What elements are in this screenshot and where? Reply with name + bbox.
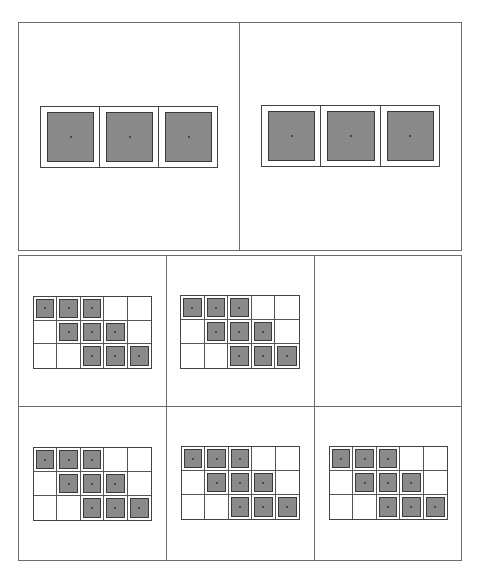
strip-cell: [100, 107, 159, 167]
grid-cell: [400, 471, 423, 495]
center-dot-icon: [215, 331, 217, 333]
three-cell-strip-left: [40, 106, 218, 168]
center-dot-icon: [138, 507, 140, 509]
gray-tile: [207, 473, 225, 492]
staircase-grid-4: [33, 447, 152, 521]
grid-cell: [353, 471, 376, 495]
gray-tile: [231, 473, 249, 492]
gray-tile: [106, 112, 153, 162]
center-dot-icon: [188, 136, 190, 138]
gray-tile: [402, 473, 420, 492]
grid-cell: [81, 448, 104, 472]
grid-cell: [330, 447, 353, 471]
grid-cell: [205, 471, 228, 495]
grid-cell: [205, 344, 229, 368]
gray-tile: [231, 497, 249, 517]
grid-cell: [34, 448, 57, 472]
gray-tile: [59, 450, 77, 469]
grid-cell: [252, 320, 276, 344]
center-dot-icon: [44, 307, 46, 309]
grid-cell: [34, 321, 57, 345]
grid-cell: [81, 496, 104, 520]
grid-cell: [57, 297, 80, 321]
grid-cell: [181, 320, 205, 344]
grid-cell: [275, 296, 299, 320]
center-dot-icon: [410, 506, 412, 508]
grid-cell: [252, 495, 275, 519]
grid-cell: [81, 321, 104, 345]
grid-cell: [57, 344, 80, 368]
center-dot-icon: [387, 482, 389, 484]
center-dot-icon: [70, 136, 72, 138]
center-dot-icon: [387, 506, 389, 508]
center-dot-icon: [239, 482, 241, 484]
grid-cell: [104, 297, 127, 321]
center-dot-icon: [387, 458, 389, 460]
center-dot-icon: [91, 483, 93, 485]
grid-cell: [275, 344, 299, 368]
grid-cell: [276, 471, 299, 495]
grid-cell: [252, 296, 276, 320]
gray-tile: [277, 346, 297, 366]
grid-cell: [34, 472, 57, 496]
grid-cell: [81, 344, 104, 368]
gray-tile: [106, 323, 124, 342]
grid-cell: [81, 297, 104, 321]
center-dot-icon: [409, 135, 411, 137]
center-dot-icon: [238, 355, 240, 357]
grid-cell: [57, 496, 80, 520]
center-dot-icon: [216, 458, 218, 460]
gray-tile: [231, 449, 249, 468]
gray-tile: [83, 498, 101, 518]
grid-cell: [104, 472, 127, 496]
center-dot-icon: [191, 307, 193, 309]
gray-tile: [230, 322, 249, 341]
grid-cell: [424, 471, 447, 495]
gray-tile: [327, 111, 374, 161]
center-dot-icon: [114, 483, 116, 485]
gray-tile: [379, 497, 397, 517]
gray-tile: [47, 112, 94, 162]
center-dot-icon: [114, 355, 116, 357]
gray-tile: [36, 450, 54, 469]
center-dot-icon: [286, 506, 288, 508]
grid-cell: [424, 495, 447, 519]
gray-tile: [207, 298, 226, 317]
gray-tile: [402, 497, 420, 517]
grid-cell: [252, 344, 276, 368]
center-dot-icon: [192, 458, 194, 460]
gray-tile: [83, 474, 101, 493]
grid-cell: [104, 448, 127, 472]
gray-tile: [268, 111, 315, 161]
gray-tile: [387, 111, 434, 161]
gray-tile: [254, 473, 272, 492]
grid-cell: [276, 495, 299, 519]
grid-cell: [205, 296, 229, 320]
center-dot-icon: [216, 482, 218, 484]
gray-tile: [59, 474, 77, 493]
center-dot-icon: [286, 355, 288, 357]
gray-tile: [230, 346, 249, 366]
grid-cell: [377, 471, 400, 495]
center-dot-icon: [68, 331, 70, 333]
gray-tile: [83, 450, 101, 469]
grid-cell: [353, 447, 376, 471]
grid-cell: [229, 495, 252, 519]
grid-cell: [57, 321, 80, 345]
grid-cell: [104, 321, 127, 345]
gray-tile: [254, 322, 273, 341]
center-dot-icon: [129, 136, 131, 138]
center-dot-icon: [238, 307, 240, 309]
center-dot-icon: [410, 482, 412, 484]
center-dot-icon: [291, 135, 293, 137]
gray-tile: [426, 497, 445, 517]
strip-cell: [321, 106, 380, 166]
strip-cell: [262, 106, 321, 166]
center-dot-icon: [68, 483, 70, 485]
strip-cell: [381, 106, 439, 166]
gray-tile: [165, 112, 212, 162]
strip-cell: [159, 107, 217, 167]
center-dot-icon: [91, 459, 93, 461]
gray-tile: [254, 346, 273, 366]
grid-cell: [181, 344, 205, 368]
